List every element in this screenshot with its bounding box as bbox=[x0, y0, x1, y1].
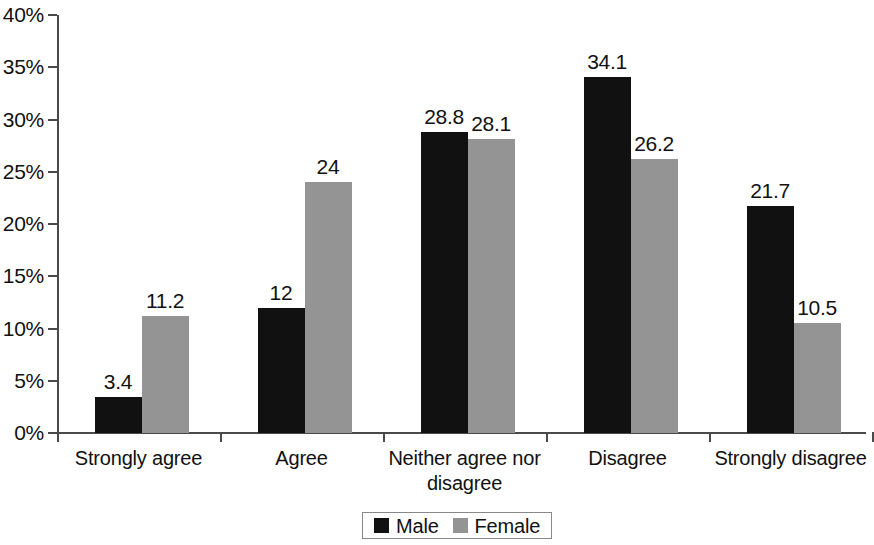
y-axis-tick-mark bbox=[48, 432, 57, 434]
x-axis-tick-mark bbox=[546, 432, 548, 442]
x-axis-category-label: Strongly disagree bbox=[709, 446, 872, 471]
bar-value-label: 24 bbox=[288, 156, 368, 177]
y-axis-tick-mark bbox=[48, 171, 57, 173]
y-axis-tick-label: 5% bbox=[0, 370, 44, 391]
y-axis-tick-label: 20% bbox=[0, 213, 44, 234]
y-axis-tick-label: 0% bbox=[0, 422, 44, 443]
bar-value-label: 11.2 bbox=[125, 290, 205, 311]
y-axis-tick-label: 25% bbox=[0, 161, 44, 182]
bar-female bbox=[305, 182, 352, 433]
plot-area: 3.411.2122428.828.134.126.221.710.5 bbox=[57, 15, 866, 433]
x-axis-category-label: Disagree bbox=[546, 446, 709, 471]
legend-swatch-icon bbox=[374, 518, 389, 533]
bar-female bbox=[468, 139, 515, 433]
chart-legend: MaleFemale bbox=[362, 512, 552, 539]
y-axis-tick-label: 30% bbox=[0, 109, 44, 130]
y-axis-tick-mark bbox=[48, 380, 57, 382]
bar-group: 28.828.1 bbox=[383, 15, 546, 433]
bar-value-label: 26.2 bbox=[614, 133, 694, 154]
bar-male bbox=[258, 308, 305, 433]
bar-male bbox=[584, 77, 631, 433]
bar-value-label: 10.5 bbox=[777, 297, 857, 318]
y-axis-tick-label: 15% bbox=[0, 265, 44, 286]
legend-label: Male bbox=[396, 516, 439, 536]
bar-group: 34.126.2 bbox=[546, 15, 709, 433]
bar-male bbox=[747, 206, 794, 433]
bar-group: 3.411.2 bbox=[57, 15, 220, 433]
bar-group: 1224 bbox=[220, 15, 383, 433]
x-axis-tick-mark bbox=[383, 432, 385, 442]
bar-group: 21.710.5 bbox=[709, 15, 872, 433]
y-axis-tick-label: 10% bbox=[0, 318, 44, 339]
x-axis-category-label: Neither agree nor disagree bbox=[383, 446, 546, 496]
bar-value-label: 28.1 bbox=[451, 113, 531, 134]
legend-swatch-icon bbox=[453, 518, 468, 533]
bar-male bbox=[95, 397, 142, 433]
x-axis-tick-mark bbox=[57, 432, 59, 442]
legend-label: Female bbox=[475, 516, 541, 536]
y-axis-tick-label: 40% bbox=[0, 4, 44, 25]
bar-female bbox=[631, 159, 678, 433]
bar-value-label: 21.7 bbox=[730, 180, 810, 201]
bar-female bbox=[142, 316, 189, 433]
bar-female bbox=[794, 323, 841, 433]
y-axis-tick-mark bbox=[48, 66, 57, 68]
y-axis-tick-mark bbox=[48, 275, 57, 277]
legend-item-female[interactable]: Female bbox=[453, 516, 541, 536]
legend-item-male[interactable]: Male bbox=[374, 516, 439, 536]
y-axis-tick-mark bbox=[48, 14, 57, 16]
x-axis-category-label: Strongly agree bbox=[57, 446, 220, 471]
x-axis-category-label: Agree bbox=[220, 446, 383, 471]
y-axis-tick-mark bbox=[48, 328, 57, 330]
bar-value-label: 34.1 bbox=[567, 51, 647, 72]
y-axis-tick-mark bbox=[48, 119, 57, 121]
x-axis-tick-mark bbox=[220, 432, 222, 442]
y-axis-tick-mark bbox=[48, 223, 57, 225]
bar-male bbox=[421, 132, 468, 433]
y-axis-tick-label: 35% bbox=[0, 56, 44, 77]
x-axis-tick-mark bbox=[709, 432, 711, 442]
